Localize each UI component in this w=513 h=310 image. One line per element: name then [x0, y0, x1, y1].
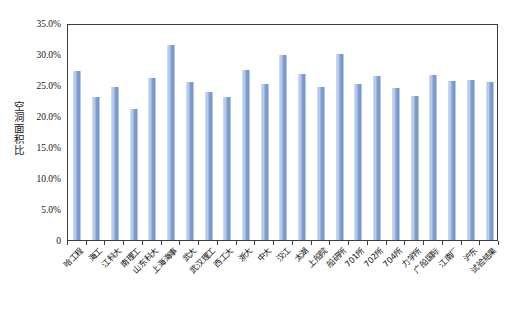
bar-slot [462, 25, 481, 240]
bar-slot [68, 25, 87, 240]
x-axis-category-labels: 哈工程海工江科大南理工山东科大上海海事武大武汉理工西工大浙大中大汉江太湖上船院船… [67, 246, 498, 310]
y-axis-tick-label: 20.0% [36, 112, 61, 122]
bar-slot [87, 25, 106, 240]
bar [486, 82, 493, 240]
y-axis-tick-label: 15.0% [36, 143, 61, 153]
bar [280, 55, 287, 240]
bar-slot [349, 25, 368, 240]
bar-slot [143, 25, 162, 240]
bar [168, 45, 175, 240]
bar [205, 92, 212, 240]
bar [74, 71, 81, 240]
bar [224, 97, 231, 240]
y-axis-tick-label: 5.0% [41, 205, 61, 215]
bar-slot [312, 25, 331, 240]
y-axis-tick-label: 35.0% [36, 19, 61, 29]
bar [374, 76, 381, 240]
bar-slot [387, 25, 406, 240]
bar-slot [105, 25, 124, 240]
y-axis-tick-label: 0 [56, 236, 61, 246]
bar [317, 87, 324, 240]
bar-slot [424, 25, 443, 240]
bar [411, 96, 418, 240]
bars-layer [68, 25, 497, 240]
bar [130, 109, 137, 240]
bar-slot [218, 25, 237, 240]
bar [392, 88, 399, 240]
bar-slot [180, 25, 199, 240]
y-axis-tick-label: 10.0% [36, 174, 61, 184]
y-axis-tick-label: 30.0% [36, 50, 61, 60]
bar [467, 80, 474, 240]
bar-slot [199, 25, 218, 240]
bar [449, 81, 456, 240]
y-axis-tick-label: 25.0% [36, 81, 61, 91]
bar [299, 74, 306, 240]
bar-slot [443, 25, 462, 240]
bar-slot [330, 25, 349, 240]
bar-slot [293, 25, 312, 240]
bar [93, 97, 100, 240]
bar [243, 70, 250, 241]
bar-slot [405, 25, 424, 240]
x-axis-tick [67, 241, 68, 245]
plot-area [67, 24, 498, 241]
bar-chart: 空洞面积比 35.0%30.0%25.0%20.0%15.0%10.0%5.0%… [0, 0, 513, 310]
bar [336, 54, 343, 240]
bar-slot [368, 25, 387, 240]
bar-slot [237, 25, 256, 240]
bar [149, 78, 156, 240]
x-axis-category-label-text: 哈工程 [62, 246, 85, 269]
bar-slot [255, 25, 274, 240]
bar [261, 84, 268, 240]
y-axis-tick-labels: 35.0%30.0%25.0%20.0%15.0%10.0%5.0%0 [12, 0, 64, 260]
x-axis-category-label-text: 浙大 [237, 246, 255, 264]
bar [186, 82, 193, 240]
bar-slot [162, 25, 181, 240]
bar-slot [274, 25, 293, 240]
bar [355, 84, 362, 240]
bar [430, 75, 437, 240]
bar-slot [124, 25, 143, 240]
bar-slot [480, 25, 499, 240]
bar [111, 87, 118, 240]
